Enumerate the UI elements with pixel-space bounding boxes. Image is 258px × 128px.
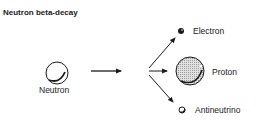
neutron-particle — [46, 62, 68, 84]
electron-particle — [178, 28, 184, 34]
electron-label: Electron — [193, 26, 224, 36]
antineutrino-particle — [179, 107, 185, 113]
proton-label: Proton — [212, 67, 237, 77]
electron-arrow — [149, 38, 175, 68]
antineutrino-label: Antineutrino — [195, 105, 240, 115]
antineutrino-arrow — [149, 75, 173, 102]
proton-particle — [176, 57, 204, 85]
neutron-label: Neutron — [39, 85, 69, 95]
